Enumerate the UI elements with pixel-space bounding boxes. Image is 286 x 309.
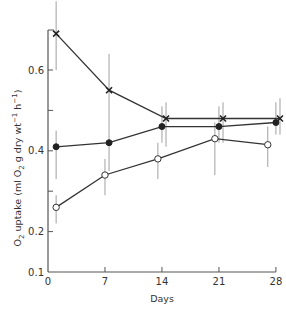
filled-circle-marker-icon xyxy=(106,140,112,146)
filled-circle-marker-icon xyxy=(273,120,279,126)
y-axis-title: O2 uptake (ml O2 g dry wt−1 h−1) xyxy=(11,90,26,247)
line-chart: 0.10.20.40.607142128 Days O2 uptake (ml … xyxy=(0,0,286,309)
data-markers xyxy=(53,31,283,211)
open-circle-marker-icon xyxy=(212,135,218,141)
x-axis-title: Days xyxy=(150,293,174,304)
error-bars xyxy=(56,1,280,223)
y-tick-label: 0.4 xyxy=(28,145,44,156)
filled-circle-marker-icon xyxy=(216,124,222,130)
x-tick-label: 14 xyxy=(156,276,169,287)
series-line xyxy=(56,139,268,208)
open-circle-marker-icon xyxy=(265,142,271,148)
x-tick-label: 21 xyxy=(213,276,226,287)
x-tick-label: 0 xyxy=(45,276,51,287)
y-tick-label: 0.2 xyxy=(28,226,44,237)
y-tick-label: 0.6 xyxy=(28,65,44,76)
filled-circle-marker-icon xyxy=(159,124,165,130)
open-circle-marker-icon xyxy=(53,204,59,210)
series-line xyxy=(56,34,280,119)
open-circle-marker-icon xyxy=(102,172,108,178)
x-tick-label: 7 xyxy=(102,276,108,287)
filled-circle-marker-icon xyxy=(53,144,59,150)
x-tick-label: 28 xyxy=(270,276,283,287)
open-circle-marker-icon xyxy=(155,156,161,162)
y-tick-label: 0.1 xyxy=(28,267,44,278)
